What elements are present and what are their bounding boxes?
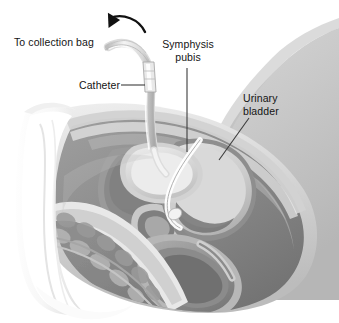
medical-illustration-figure: To collection bag Catheter Symphysis pub…: [0, 0, 339, 323]
label-catheter: Catheter: [79, 79, 120, 92]
label-to-collection-bag: To collection bag: [14, 36, 94, 49]
curved-direction-arrow: [101, 9, 145, 32]
label-symphysis-pubis: Symphysis pubis: [155, 38, 221, 63]
catheter-connector: [143, 62, 156, 92]
label-urinary-bladder: Urinary bladder: [243, 92, 279, 117]
